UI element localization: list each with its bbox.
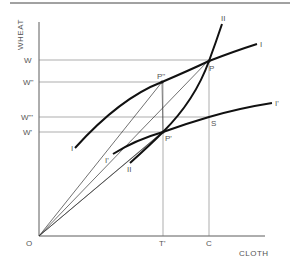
curve-I-left-label: I xyxy=(71,144,73,153)
curve-II-bottom-label: II xyxy=(127,165,131,174)
point-P-prime-label: P' xyxy=(165,134,172,143)
origin-label: O xyxy=(26,239,32,248)
curve-II-top-label: II xyxy=(221,14,225,23)
curve-I-prime-left-label: I' xyxy=(105,156,109,165)
curve-I-right-label: I xyxy=(260,40,262,49)
curve-I-prime-right-label: I' xyxy=(275,99,279,108)
y-label-W-double: W'' xyxy=(23,78,34,87)
y-axis-label: WHEAT xyxy=(16,19,25,50)
x-label-C: C xyxy=(206,239,212,248)
point-P-dot xyxy=(208,60,211,63)
y-label-W: W xyxy=(24,56,32,65)
trade-indifference-diagram: WHEAT CLOTH O W W'' W''' W' T' C P P'' P… xyxy=(0,0,291,270)
y-label-W-triple: W''' xyxy=(21,113,34,122)
y-label-W-prime: W' xyxy=(23,128,33,137)
x-label-T-prime: T' xyxy=(159,239,166,248)
ray-O-P-prime-2 xyxy=(39,134,160,236)
curve-I-prime xyxy=(113,103,272,154)
point-P-label: P xyxy=(209,64,214,73)
curve-II xyxy=(130,24,222,163)
x-axis-label: CLOTH xyxy=(239,249,269,258)
point-S-label: S xyxy=(211,119,216,128)
ray-O-P-double xyxy=(39,82,162,236)
point-P-double-label: P'' xyxy=(157,72,166,81)
curve-I xyxy=(75,44,257,148)
